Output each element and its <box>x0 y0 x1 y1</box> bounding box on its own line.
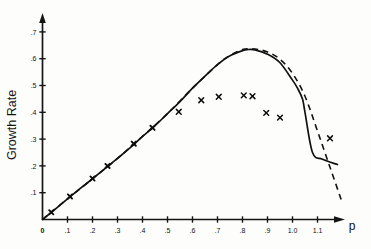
y-tick-label: .5 <box>31 82 37 89</box>
growth-rate-chart: Growth Rate p 0.1.2.3.4.5.6.7.8.91.01.1 … <box>0 0 371 249</box>
solid-curve <box>43 49 338 219</box>
scatter-markers <box>49 93 332 214</box>
y-axis-tick-labels: .1.2.3.4.5.6.7 <box>31 29 37 197</box>
x-tick-label: .5 <box>165 227 171 234</box>
x-tick-label: .8 <box>240 227 246 234</box>
y-tick-label: .1 <box>31 189 37 196</box>
figure-container: Growth Rate p 0.1.2.3.4.5.6.7.8.91.01.1 … <box>0 0 371 249</box>
y-tick-label: .3 <box>31 136 37 143</box>
y-tick-label: .2 <box>31 163 37 170</box>
x-tick-label: .7 <box>215 227 221 234</box>
x-axis-arrow <box>334 216 345 223</box>
scatter-marker <box>328 136 333 141</box>
x-tick-label: 0 <box>41 227 45 234</box>
y-axis-title: Growth Rate <box>5 90 19 160</box>
x-tick-label: .2 <box>90 227 96 234</box>
scatter-marker <box>241 93 246 98</box>
x-tick-label: .3 <box>115 227 121 234</box>
y-tick-label: .7 <box>31 29 37 36</box>
x-axis-tick-labels: 0.1.2.3.4.5.6.7.8.91.01.1 <box>41 227 323 234</box>
scatter-marker <box>176 109 181 114</box>
x-tick-label: .6 <box>190 227 196 234</box>
scatter-marker <box>278 115 283 120</box>
x-tick-label: .9 <box>265 227 271 234</box>
x-axis-title: p <box>349 219 356 233</box>
scatter-marker <box>250 94 255 99</box>
x-tick-label: .1 <box>65 227 71 234</box>
x-tick-label: .4 <box>140 227 146 234</box>
axes-group <box>39 13 345 223</box>
scatter-marker <box>199 98 204 103</box>
x-tick-label: 1.1 <box>313 227 323 234</box>
x-tick-label: 1.0 <box>288 227 298 234</box>
y-tick-label: .6 <box>31 55 37 62</box>
dashed-curve <box>43 49 343 220</box>
y-tick-label: .4 <box>31 109 37 116</box>
scatter-marker <box>216 94 221 99</box>
scatter-marker <box>264 110 269 115</box>
y-axis-arrow <box>39 13 46 23</box>
